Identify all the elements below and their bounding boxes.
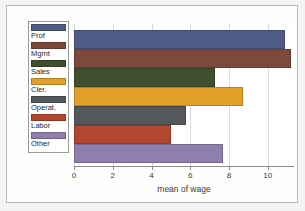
figure-frame: 0246810 mean of wage ProfMgmtSalesCler.O… (6, 5, 298, 203)
bar-row (74, 68, 293, 87)
legend-swatch (31, 96, 66, 103)
x-axis-title: mean of wage (74, 184, 294, 194)
legend-swatch (31, 60, 66, 67)
bar-row (74, 144, 293, 163)
legend-item-other: Other (31, 132, 66, 149)
legend-swatch (31, 78, 66, 85)
bar-labor (74, 125, 171, 144)
legend-label: Operat. (31, 103, 66, 113)
x-axis-line (74, 166, 294, 167)
bar-mgmt (74, 49, 291, 68)
bar-row (74, 30, 293, 49)
legend-item-mgmt: Mgmt (31, 42, 66, 59)
legend-swatch (31, 132, 66, 139)
x-tick-label: 10 (263, 171, 272, 180)
bar-row (74, 125, 293, 144)
legend-label: Mgmt (31, 49, 66, 59)
legend-label: Prof (31, 31, 66, 41)
tick-mark (268, 166, 269, 170)
bar-other (74, 144, 223, 163)
legend-label: Sales (31, 67, 66, 77)
x-tick-label: 6 (188, 171, 192, 180)
legend-item-cler: Cler. (31, 78, 66, 95)
bar-cler (74, 87, 243, 106)
bar-prof (74, 30, 285, 49)
legend-swatch (31, 42, 66, 49)
bar-row (74, 106, 293, 125)
legend-swatch (31, 114, 66, 121)
chart-legend: ProfMgmtSalesCler.Operat.LaborOther (28, 21, 69, 153)
legend-label: Other (31, 139, 66, 149)
tick-mark (190, 166, 191, 170)
x-tick-label: 0 (72, 171, 76, 180)
legend-swatch (31, 24, 66, 31)
tick-mark (74, 166, 75, 170)
plot-area (74, 24, 293, 166)
x-tick-label: 8 (227, 171, 231, 180)
bar-series (74, 30, 293, 166)
legend-item-sales: Sales (31, 60, 66, 77)
bar-operat (74, 106, 186, 125)
tick-mark (152, 166, 153, 170)
legend-item-operat: Operat. (31, 96, 66, 113)
chart-figure: 0246810 mean of wage ProfMgmtSalesCler.O… (0, 0, 305, 211)
legend-label: Labor (31, 121, 66, 131)
legend-item-prof: Prof (31, 24, 66, 41)
bar-row (74, 49, 293, 68)
legend-item-labor: Labor (31, 114, 66, 131)
bar-row (74, 87, 293, 106)
legend-label: Cler. (31, 85, 66, 95)
tick-mark (229, 166, 230, 170)
x-tick-label: 2 (111, 171, 115, 180)
bar-sales (74, 68, 215, 87)
x-tick-label: 4 (149, 171, 153, 180)
tick-mark (113, 166, 114, 170)
